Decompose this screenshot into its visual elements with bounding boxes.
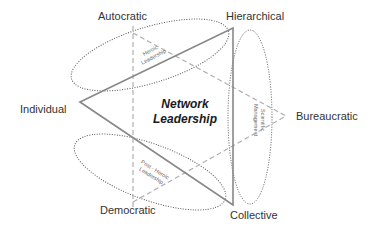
center-title-line2: Leadership [145,112,225,127]
scientific-line2: Management [252,97,259,143]
label-democratic: Democratic [100,204,156,216]
label-individual: Individual [20,103,66,115]
scientific-line1: Scientific [259,97,266,143]
center-title: Network Leadership [145,97,225,127]
label-scientific-management: Scientific Management [252,97,266,143]
label-autocratic: Autocratic [98,10,147,22]
label-bureaucratic: Bureaucratic [296,110,358,122]
center-title-line1: Network [145,97,225,112]
label-hierarchical: Hierarchical [226,10,284,22]
label-collective: Collective [230,209,278,221]
